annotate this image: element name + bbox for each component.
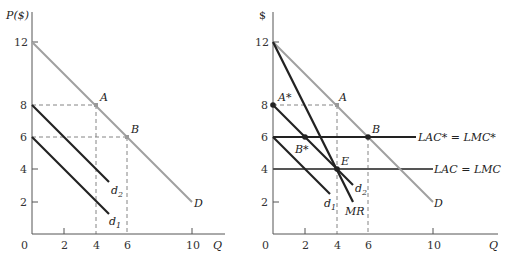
left-curve-d1-label: d1 xyxy=(109,215,121,230)
left-point-B-marker xyxy=(125,135,129,139)
right-axes xyxy=(273,12,498,234)
right-x-axis-label: Q xyxy=(489,239,498,252)
diagram-canvas: P($) 12 8 6 4 2 0 2 4 6 10 Q A B D d2 d1 xyxy=(0,0,505,258)
left-y-axis-label: P($) xyxy=(5,9,29,22)
right-y-tick-8: 8 xyxy=(261,99,268,112)
right-x-tick-10: 10 xyxy=(427,239,441,252)
right-demand-curve-D xyxy=(273,42,433,202)
right-point-B-label: B xyxy=(371,123,380,136)
left-point-B-label: B xyxy=(130,123,139,136)
left-x-tick-4: 4 xyxy=(93,239,100,252)
right-point-A-star-label: A* xyxy=(277,91,292,104)
right-mr-label: MR xyxy=(344,205,365,218)
right-y-tick-6: 6 xyxy=(261,131,268,144)
left-demand-curve-D xyxy=(32,42,192,202)
right-curve-D-label: D xyxy=(433,197,443,210)
right-demand-curve-d2 xyxy=(273,105,353,185)
left-origin-label: 0 xyxy=(21,239,28,252)
left-x-tick-6: 6 xyxy=(124,239,131,252)
left-curve-D-label: D xyxy=(193,197,203,210)
left-y-tick-12: 12 xyxy=(14,36,28,49)
right-y-axis-label: $ xyxy=(259,9,266,22)
right-point-A-label: A xyxy=(338,91,347,104)
right-point-E-label: E xyxy=(340,155,349,168)
right-x-tick-6: 6 xyxy=(365,239,372,252)
right-point-B-star-marker xyxy=(302,134,308,140)
left-y-tick-6: 6 xyxy=(20,131,27,144)
right-curve-d1-label: d1 xyxy=(324,197,336,212)
left-demand-curve-d1 xyxy=(32,137,109,214)
right-y-tick-4: 4 xyxy=(261,163,268,176)
left-curve-d2-label: d2 xyxy=(111,184,123,199)
left-y-tick-8: 8 xyxy=(20,99,27,112)
right-curve-d2-label: d2 xyxy=(355,182,367,197)
right-panel: $ 12 8 6 4 2 0 2 4 6 10 Q A* A B B* E LA… xyxy=(255,9,501,252)
left-demand-curve-d2 xyxy=(32,105,109,182)
right-lac-star-label: LAC* = LMC* xyxy=(417,131,496,144)
right-point-B-star-label: B* xyxy=(294,143,309,156)
left-y-tick-4: 4 xyxy=(20,163,27,176)
left-x-tick-2: 2 xyxy=(61,239,68,252)
left-x-axis-label: Q xyxy=(213,239,222,252)
right-x-tick-4: 4 xyxy=(334,239,341,252)
left-point-A-marker xyxy=(94,103,98,107)
right-point-A-star-marker xyxy=(270,102,276,108)
right-x-tick-2: 2 xyxy=(302,239,309,252)
right-origin-label: 0 xyxy=(262,239,269,252)
left-point-A-label: A xyxy=(99,91,108,104)
left-panel: P($) 12 8 6 4 2 0 2 4 6 10 Q A B D d2 d1 xyxy=(5,9,225,252)
right-point-E-marker xyxy=(334,166,340,172)
left-y-tick-2: 2 xyxy=(20,196,27,209)
left-x-tick-10: 10 xyxy=(186,239,200,252)
right-lac-label: LAC = LMC xyxy=(433,163,501,176)
right-y-tick-2: 2 xyxy=(261,196,268,209)
right-y-tick-12: 12 xyxy=(255,36,269,49)
right-point-B-marker xyxy=(365,134,371,140)
